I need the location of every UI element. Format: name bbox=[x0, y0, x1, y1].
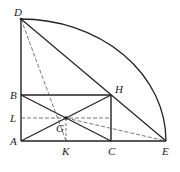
geometry-diagram: D B L A G K C H E bbox=[0, 0, 180, 172]
label-H: H bbox=[114, 83, 124, 95]
segment-GE bbox=[66, 118, 166, 141]
point-D bbox=[20, 18, 23, 21]
point-G bbox=[64, 116, 68, 120]
label-A: A bbox=[9, 135, 17, 147]
label-K: K bbox=[61, 145, 70, 157]
segment-DE bbox=[21, 19, 166, 141]
label-B: B bbox=[10, 89, 17, 101]
label-E: E bbox=[161, 145, 169, 157]
label-L: L bbox=[9, 112, 16, 124]
label-D: D bbox=[13, 6, 22, 18]
label-C: C bbox=[108, 145, 116, 157]
label-G: G bbox=[56, 122, 64, 134]
